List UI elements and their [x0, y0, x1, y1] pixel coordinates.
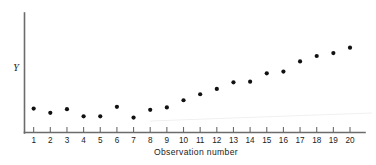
data-point [281, 69, 285, 73]
x-tick-label: 14 [246, 136, 256, 145]
data-point [48, 111, 52, 115]
data-point [131, 115, 135, 119]
x-axis-title: Observation number [154, 147, 238, 157]
x-tick-label: 20 [345, 136, 355, 145]
data-point [181, 98, 185, 102]
x-tick-label: 15 [262, 136, 272, 145]
x-tick-label: 8 [148, 136, 153, 145]
y-axis-title: Y [13, 62, 20, 73]
x-tick-label: 11 [196, 136, 205, 145]
data-point [315, 54, 319, 58]
x-tick-label: 17 [296, 136, 306, 145]
data-point [165, 105, 169, 109]
data-point [348, 46, 352, 50]
x-tick-label: 2 [48, 136, 53, 145]
scatter-plot-figure: Y 1234567891011121314151617181920 Observ… [0, 0, 376, 165]
data-point [98, 114, 102, 118]
x-tick-label: 12 [212, 136, 222, 145]
data-point [298, 59, 302, 63]
data-point [32, 107, 36, 111]
plot-canvas: Y 1234567891011121314151617181920 Observ… [0, 0, 376, 165]
x-tick-label: 3 [65, 136, 70, 145]
x-tick-label: 4 [81, 136, 86, 145]
x-tick-label: 18 [312, 136, 322, 145]
x-tick-label: 16 [279, 136, 289, 145]
x-axis-ticks: 1234567891011121314151617181920 [31, 127, 355, 145]
data-point [82, 114, 86, 118]
data-point [231, 80, 235, 84]
scan-artifact [150, 113, 372, 121]
data-point [265, 71, 269, 75]
data-point [331, 51, 335, 55]
data-point [198, 92, 202, 96]
x-tick-label: 13 [229, 136, 239, 145]
x-tick-label: 5 [98, 136, 103, 145]
x-tick-label: 7 [131, 136, 136, 145]
data-point [215, 87, 219, 91]
data-point [115, 105, 119, 109]
data-point [148, 108, 152, 112]
data-point [65, 107, 69, 111]
data-point [248, 80, 252, 84]
x-tick-label: 9 [165, 136, 170, 145]
x-tick-label: 19 [329, 136, 339, 145]
data-point-series [32, 46, 353, 120]
x-tick-label: 10 [179, 136, 189, 145]
x-tick-label: 6 [115, 136, 120, 145]
x-tick-label: 1 [31, 136, 36, 145]
